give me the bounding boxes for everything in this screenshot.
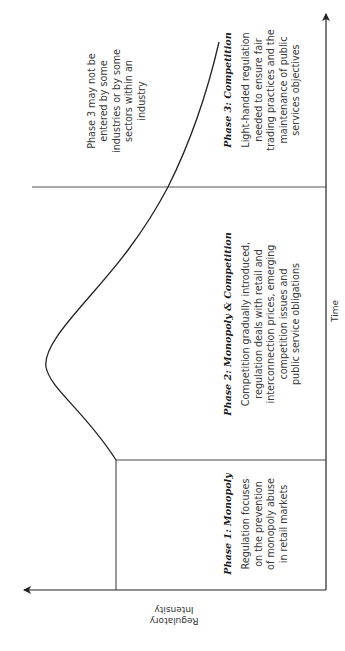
time-axis-label: Time — [330, 291, 341, 331]
phase1-block: Phase 1: Monopoly Regulation focuses on … — [222, 463, 290, 585]
phase3-description: Light-handed regulation needed to ensure… — [240, 15, 302, 165]
phase3-note: Phase 3 may not be entered by some indus… — [86, 31, 148, 171]
phase2-description: Competition gradually introduced, regula… — [240, 209, 302, 439]
regulation-phases-diagram: Phase 1: Monopoly Regulation focuses on … — [0, 0, 345, 651]
phase3-title: Phase 3: Competition — [222, 15, 234, 165]
phase2-title: Phase 2: Monopoly & Competition — [222, 209, 234, 439]
phase1-title: Phase 1: Monopoly — [222, 463, 234, 585]
phase1-description: Regulation focuses on the prevention of … — [240, 463, 290, 585]
regulatory-intensity-axis-label: Regulatory Intensity — [139, 604, 209, 626]
phase3-block: Phase 3: Competition Light-handed regula… — [222, 15, 302, 165]
phase2-block: Phase 2: Monopoly & Competition Competit… — [222, 209, 302, 439]
